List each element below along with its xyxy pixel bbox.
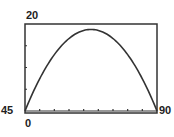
axis-ticks [25, 46, 142, 111]
plot-area [0, 0, 174, 137]
data-curve [25, 29, 157, 111]
